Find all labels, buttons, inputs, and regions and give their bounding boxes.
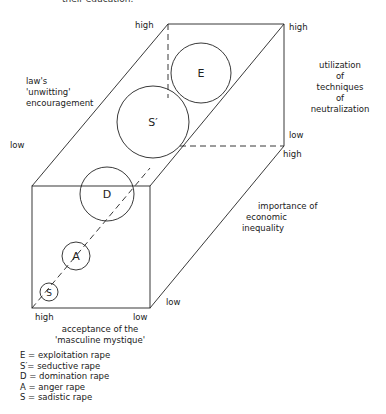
circle-label-s: S	[46, 288, 52, 298]
horizontal-axis-low: low	[133, 312, 148, 323]
legend-item-a: A = anger rape	[20, 382, 110, 393]
left-axis-high: high	[135, 20, 154, 31]
right-axis-low: low	[289, 130, 304, 141]
legend-item-e: E = exploitation rape	[20, 350, 110, 361]
right-axis-title: utilization of techniques of neutralizat…	[300, 60, 380, 115]
circle-label-e: E	[198, 67, 205, 80]
depth-axis-high: high	[283, 149, 302, 160]
circle-label-d: D	[103, 188, 111, 201]
legend-item-d: D = domination rape	[20, 371, 110, 382]
top-right-edge	[150, 24, 284, 186]
depth-axis-title: importance of economic inequality	[246, 201, 317, 234]
right-axis-high: high	[289, 22, 308, 33]
left-axis-title: law's 'unwitting' encouragement	[26, 76, 93, 109]
horizontal-axis-title: acceptance of the 'masculine mystique'	[45, 324, 155, 346]
depth-axis-low: low	[166, 297, 181, 308]
circle-label-s-prime: S′	[148, 116, 158, 129]
horizontal-axis-high: high	[35, 312, 54, 323]
left-axis-low: low	[10, 140, 25, 151]
legend: E = exploitation rape S′= seductive rape…	[20, 350, 110, 403]
legend-item-s: S = sadistic rape	[20, 392, 110, 403]
legend-item-s-prime: S′= seductive rape	[20, 361, 110, 372]
hidden-diagonal	[32, 168, 150, 308]
circle-label-a: A	[72, 250, 80, 263]
